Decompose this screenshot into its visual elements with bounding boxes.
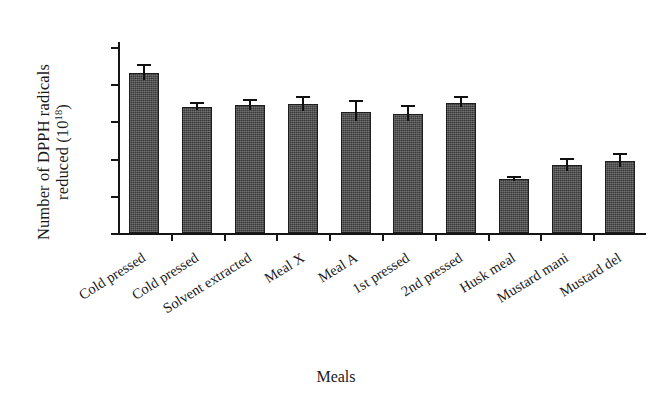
y-axis-title-line2-prefix: reduced (10 (53, 120, 72, 199)
y-axis-tick-mark (111, 196, 118, 198)
bar (393, 114, 423, 233)
error-bar (302, 98, 304, 111)
y-axis-line (118, 42, 120, 233)
error-bar-cap (243, 99, 257, 101)
bar (605, 161, 635, 233)
error-bar (143, 66, 145, 79)
bar (446, 103, 476, 233)
error-bar-cap (296, 96, 310, 98)
bar (129, 73, 159, 233)
plot-area: 2520201050 (118, 47, 646, 233)
x-axis-tick-mark (540, 234, 542, 241)
error-bar (566, 160, 568, 170)
error-bar-cap (137, 64, 151, 66)
figure-bar-chart: Number of DPPH radicals reduced (1018) 2… (0, 0, 672, 414)
bar (182, 107, 212, 233)
error-bar (196, 104, 198, 110)
bar (288, 104, 318, 233)
x-axis-tick-mark (382, 234, 384, 241)
y-axis-title: Number of DPPH radicals reduced (1018) (31, 27, 75, 277)
error-bar-cap (349, 100, 363, 102)
error-bar (407, 107, 409, 120)
error-bar-cap (401, 105, 415, 107)
bar (341, 112, 371, 233)
x-axis-tick-mark (171, 234, 173, 241)
error-bar-cap (190, 102, 204, 104)
y-axis-tick-mark (111, 233, 118, 235)
bar (552, 165, 582, 233)
x-axis-tick-mark (435, 234, 437, 241)
error-bar (355, 102, 357, 121)
y-axis-title-line2: reduced (1018) (53, 104, 72, 200)
bar (235, 105, 265, 233)
error-bar (513, 178, 515, 181)
y-axis-tick-mark (111, 121, 118, 123)
x-axis-tick-mark (329, 234, 331, 241)
x-axis-tick-mark (593, 234, 595, 241)
x-axis-tick-mark (224, 234, 226, 241)
y-axis-title-line1: Number of DPPH radicals (34, 64, 53, 240)
y-axis-tick-mark (111, 159, 118, 161)
x-axis-tick-mark (276, 234, 278, 241)
y-axis-title-line2-suffix: ) (53, 104, 72, 110)
y-axis-tick-mark (111, 47, 118, 49)
error-bar (460, 98, 462, 107)
error-bar (249, 101, 251, 110)
bar (499, 179, 529, 233)
error-bar (619, 155, 621, 167)
y-axis-title-exponent: 18 (53, 110, 64, 121)
x-axis-title: Meals (0, 368, 672, 386)
y-axis-tick-mark (111, 84, 118, 86)
error-bar-cap (454, 96, 468, 98)
error-bar-cap (560, 158, 574, 160)
x-axis-tick-mark (488, 234, 490, 241)
error-bar-cap (613, 153, 627, 155)
error-bar-cap (507, 176, 521, 178)
